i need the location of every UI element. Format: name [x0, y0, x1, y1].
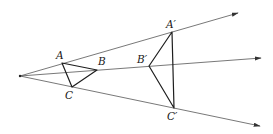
- dilation-diagram: A B C A′ B′ C′: [0, 0, 273, 134]
- dilation-center-point: [19, 75, 21, 77]
- triangle-abc: [62, 63, 97, 87]
- rays: [20, 13, 261, 126]
- triangle-a-prime-b-prime-c-prime: [149, 32, 174, 108]
- label-c-prime: C′: [167, 110, 178, 122]
- label-b-prime: B′: [136, 53, 148, 65]
- label-a-prime: A′: [165, 18, 177, 30]
- ray-through-c: [20, 76, 260, 126]
- label-c: C: [65, 89, 73, 101]
- label-b: B: [97, 55, 106, 67]
- label-a: A: [55, 49, 64, 61]
- ray-through-a: [20, 13, 238, 76]
